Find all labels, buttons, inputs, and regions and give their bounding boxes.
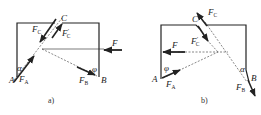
label-force-fb: FB [78,75,89,86]
label-angle-alpha: α [17,63,22,73]
label-point-c: C [192,14,199,24]
panel-a: A B C FA FB FC F′C F α φ a) [8,13,122,105]
line-of-action-cp [207,40,218,52]
label-point-b: B [251,73,257,83]
label-force-fc: FC [207,7,218,18]
label-angle-alpha: α [240,64,245,74]
force-diagram: A B C FA FB FC F′C F α φ a) A B C FA FB … [0,0,261,115]
label-point-c: C [61,13,68,23]
label-point-b: B [101,75,107,85]
label-point-a: A [8,75,15,85]
label-force-fb: FB [235,82,246,93]
caption-a: a) [48,96,55,105]
label-force-fc: FC [31,24,42,35]
label-force-f: F [171,40,178,50]
panel-b: A B C FA FB FC F′C F φ α b) [151,7,257,105]
label-force-fc-prime: F′C [61,28,71,39]
label-force-f: F [111,38,118,48]
label-angle-phi: φ [92,64,97,74]
label-force-fa: FA [165,79,176,90]
force-fc-prime-arrow [52,24,62,38]
label-force-fa: FA [18,74,29,85]
force-fc-prime-arrow [198,26,208,41]
caption-b: b) [201,96,208,105]
force-fc-arrow [197,13,207,26]
label-angle-phi: φ [164,63,169,73]
label-point-a: A [151,74,158,84]
label-force-fc-prime: F′C [190,36,200,47]
